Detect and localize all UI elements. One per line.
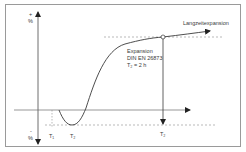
expansion-curve: [59, 31, 210, 125]
y-axis-minus-sign: -: [30, 128, 32, 135]
t1-label: T₁: [49, 133, 54, 140]
y-axis-minus-unit: %: [28, 135, 33, 142]
t2-bottom-label: T₂: [70, 133, 76, 140]
y-axis-plus-unit: %: [28, 18, 33, 25]
long-term-expansion-label: Langzeitexpansion: [183, 20, 229, 27]
expansion-label-line1: Expansion: [127, 48, 153, 55]
t2-point-marker: [161, 35, 165, 39]
expansion-label-line2: DIN EN 26873: [127, 55, 162, 62]
t2-right-label: T₂: [160, 131, 166, 138]
expansion-label-line3: T₂ = 2 h: [127, 62, 146, 69]
y-axis-plus-sign: +: [29, 11, 32, 18]
